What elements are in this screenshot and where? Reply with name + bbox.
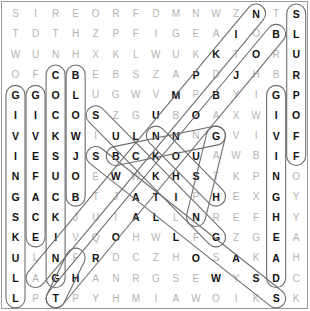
grid-cell[interactable]: E: [26, 227, 46, 247]
grid-cell[interactable]: O: [286, 166, 306, 186]
grid-cell[interactable]: E: [186, 24, 206, 44]
grid-cell[interactable]: Z: [106, 105, 126, 125]
grid-cell[interactable]: H: [206, 187, 226, 207]
grid-cell[interactable]: C: [286, 268, 306, 288]
grid-cell[interactable]: P: [246, 166, 266, 186]
grid-cell[interactable]: F: [26, 166, 46, 186]
grid-cell[interactable]: O: [186, 248, 206, 268]
grid-cell[interactable]: S: [246, 268, 266, 288]
grid-cell[interactable]: C: [46, 105, 66, 125]
grid-cell[interactable]: P: [106, 24, 126, 44]
grid-cell[interactable]: H: [286, 248, 306, 268]
grid-cell[interactable]: K: [286, 288, 306, 308]
grid-cell[interactable]: T: [226, 44, 246, 64]
grid-cell[interactable]: V: [66, 227, 86, 247]
grid-cell[interactable]: G: [106, 85, 126, 105]
grid-cell[interactable]: D: [266, 268, 286, 288]
grid-cell[interactable]: G: [6, 85, 26, 105]
grid-cell[interactable]: U: [146, 105, 166, 125]
grid-cell[interactable]: N: [186, 126, 206, 146]
grid-cell[interactable]: X: [246, 187, 266, 207]
grid-cell[interactable]: L: [26, 248, 46, 268]
grid-cell[interactable]: N: [166, 126, 186, 146]
grid-cell[interactable]: G: [146, 268, 166, 288]
grid-cell[interactable]: J: [66, 207, 86, 227]
grid-cell[interactable]: S: [6, 4, 26, 24]
grid-cell[interactable]: N: [46, 44, 66, 64]
grid-cell[interactable]: A: [226, 248, 246, 268]
grid-cell[interactable]: Z: [146, 65, 166, 85]
grid-cell[interactable]: P: [286, 85, 306, 105]
grid-cell[interactable]: Y: [286, 207, 306, 227]
grid-cell[interactable]: W: [246, 105, 266, 125]
grid-cell[interactable]: R: [126, 268, 146, 288]
grid-cell[interactable]: F: [66, 248, 86, 268]
grid-cell[interactable]: D: [106, 248, 126, 268]
grid-cell[interactable]: P: [66, 288, 86, 308]
grid-cell[interactable]: L: [286, 24, 306, 44]
grid-cell[interactable]: W: [186, 288, 206, 308]
grid-cell[interactable]: S: [266, 288, 286, 308]
grid-cell[interactable]: H: [66, 268, 86, 288]
grid-cell[interactable]: R: [86, 248, 106, 268]
grid-cell[interactable]: S: [286, 4, 306, 24]
grid-cell[interactable]: X: [86, 44, 106, 64]
grid-cell[interactable]: L: [166, 227, 186, 247]
grid-cell[interactable]: T: [46, 24, 66, 44]
grid-cell[interactable]: U: [86, 85, 106, 105]
grid-cell[interactable]: W: [66, 126, 86, 146]
grid-cell[interactable]: T: [146, 187, 166, 207]
grid-cell[interactable]: A: [126, 187, 146, 207]
grid-cell[interactable]: I: [26, 105, 46, 125]
grid-cell[interactable]: H: [66, 44, 86, 64]
grid-cell[interactable]: F: [286, 126, 306, 146]
grid-cell[interactable]: I: [146, 24, 166, 44]
grid-cell[interactable]: E: [226, 187, 246, 207]
grid-cell[interactable]: O: [186, 105, 206, 125]
grid-cell[interactable]: V: [146, 85, 166, 105]
grid-cell[interactable]: I: [226, 24, 246, 44]
grid-cell[interactable]: L: [166, 207, 186, 227]
grid-cell[interactable]: O: [66, 105, 86, 125]
grid-cell[interactable]: K: [46, 207, 66, 227]
grid-cell[interactable]: A: [286, 227, 306, 247]
grid-cell[interactable]: D: [26, 24, 46, 44]
grid-cell[interactable]: D: [206, 65, 226, 85]
grid-cell[interactable]: U: [286, 44, 306, 64]
grid-cell[interactable]: F: [26, 65, 46, 85]
grid-cell[interactable]: H: [246, 65, 266, 85]
grid-cell[interactable]: S: [6, 207, 26, 227]
grid-cell[interactable]: G: [166, 24, 186, 44]
grid-cell[interactable]: Z: [226, 4, 246, 24]
grid-cell[interactable]: O: [206, 288, 226, 308]
grid-cell[interactable]: H: [66, 24, 86, 44]
grid-cell[interactable]: C: [26, 207, 46, 227]
grid-cell[interactable]: T: [6, 24, 26, 44]
grid-cell[interactable]: N: [266, 166, 286, 186]
grid-cell[interactable]: J: [106, 187, 126, 207]
grid-cell[interactable]: B: [166, 105, 186, 125]
grid-cell[interactable]: O: [166, 146, 186, 166]
grid-cell[interactable]: K: [46, 126, 66, 146]
grid-cell[interactable]: S: [186, 166, 206, 186]
grid-cell[interactable]: Y: [226, 268, 246, 288]
grid-cell[interactable]: N: [106, 268, 126, 288]
grid-cell[interactable]: I: [26, 4, 46, 24]
grid-cell[interactable]: F: [126, 24, 146, 44]
grid-cell[interactable]: U: [86, 207, 106, 227]
grid-cell[interactable]: N: [46, 248, 66, 268]
grid-cell[interactable]: G: [46, 268, 66, 288]
grid-cell[interactable]: A: [26, 187, 46, 207]
grid-cell[interactable]: F: [126, 4, 146, 24]
grid-cell[interactable]: V: [6, 126, 26, 146]
grid-cell[interactable]: A: [206, 24, 226, 44]
grid-cell[interactable]: B: [246, 146, 266, 166]
grid-cell[interactable]: A: [266, 248, 286, 268]
grid-cell[interactable]: U: [186, 146, 206, 166]
grid-cell[interactable]: U: [166, 44, 186, 64]
grid-cell[interactable]: K: [246, 248, 266, 268]
grid-cell[interactable]: I: [246, 126, 266, 146]
grid-cell[interactable]: U: [26, 44, 46, 64]
grid-cell[interactable]: E: [26, 146, 46, 166]
grid-cell[interactable]: W: [106, 166, 126, 186]
